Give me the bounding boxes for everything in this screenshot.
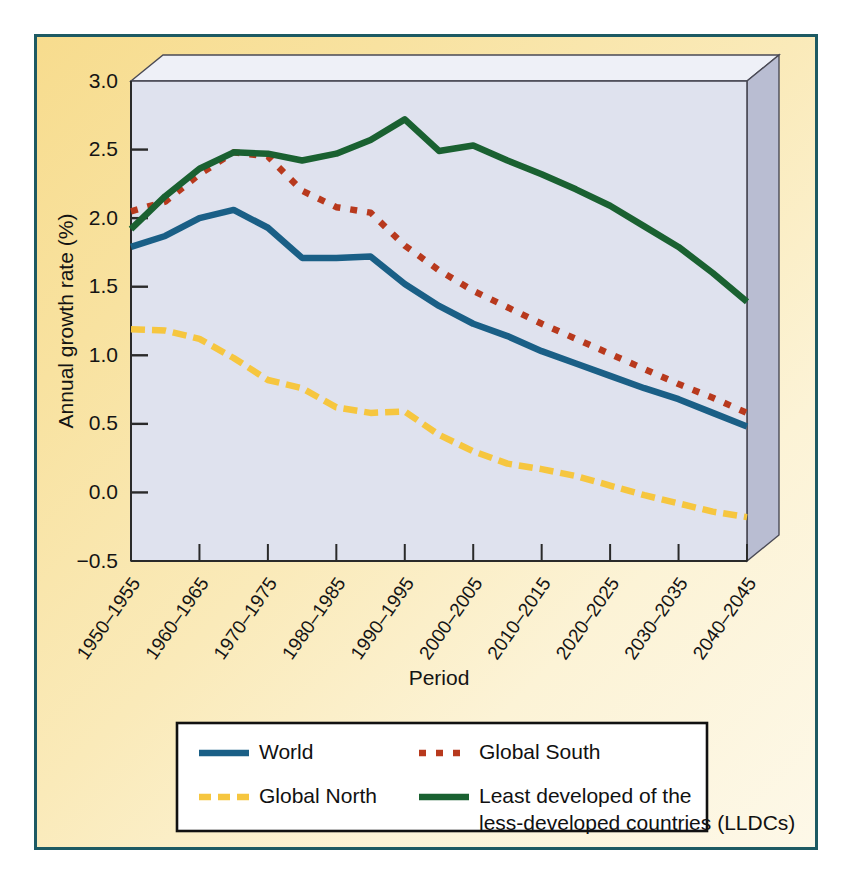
plot-right-face	[747, 55, 779, 561]
y-tick-label: 3.0	[89, 69, 118, 92]
x-tick-label: 1990–1995	[346, 573, 418, 663]
legend-label-3: Least developed of the	[479, 784, 692, 807]
x-tick-label: 2010–2015	[483, 573, 555, 663]
x-tick-label: 2020–2025	[552, 573, 624, 663]
legend-label-2: Global North	[259, 784, 377, 807]
plot-top-face	[131, 55, 779, 81]
y-tick-label: −0.5	[77, 549, 118, 572]
figure-panel: −0.50.00.51.01.52.02.53.0 1950–19551960–…	[34, 34, 818, 850]
y-axis-title: Annual growth rate (%)	[54, 214, 77, 429]
y-tick-label: 0.0	[89, 480, 118, 503]
chart-container: −0.50.00.51.01.52.02.53.0 1950–19551960–…	[37, 37, 821, 853]
legend-label-1: Global South	[479, 740, 600, 763]
x-axis-title: Period	[409, 666, 470, 689]
y-tick-label: 1.5	[89, 274, 118, 297]
x-tick-label: 1950–1955	[73, 573, 145, 663]
y-tick-label: 2.0	[89, 206, 118, 229]
legend-label-0: World	[259, 740, 313, 763]
x-tick-label: 2040–2045	[689, 573, 761, 663]
y-tick-label: 2.5	[89, 137, 118, 160]
x-tick-label: 2030–2035	[620, 573, 692, 663]
x-tick-label: 2000–2005	[415, 573, 487, 663]
x-tick-label: 1970–1975	[209, 573, 281, 663]
y-tick-label: 1.0	[89, 343, 118, 366]
legend-label-3-line2: less-developed countries (LLDCs)	[479, 811, 795, 834]
growth-rate-line-chart: −0.50.00.51.01.52.02.53.0 1950–19551960–…	[37, 37, 821, 853]
x-tick-label: 1960–1965	[141, 573, 213, 663]
x-tick-labels: 1950–19551960–19651970–19751980–19851990…	[73, 573, 761, 663]
y-tick-label: 0.5	[89, 411, 118, 434]
y-tick-labels: −0.50.00.51.01.52.02.53.0	[77, 69, 118, 572]
x-tick-label: 1980–1985	[278, 573, 350, 663]
